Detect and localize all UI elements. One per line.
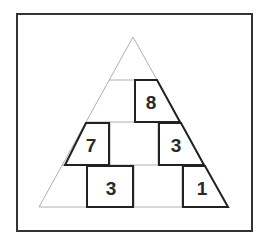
cell-value: 7 [86,135,97,156]
cell-r4c2: 3 [87,166,133,207]
cell-r3c1: 7 [65,123,109,165]
cell-value: 8 [146,92,157,113]
cell-value: 3 [106,178,117,199]
cell-r4c4: 1 [183,166,228,207]
cell-value: 1 [197,178,208,199]
cell-box [159,123,204,165]
pyramid-diagram: 8 7 3 3 1 [0,0,266,241]
cell-value: 3 [171,135,182,156]
cell-r3c3: 3 [159,123,204,165]
cell-box [135,80,180,122]
cell-r2c2: 8 [135,80,180,122]
